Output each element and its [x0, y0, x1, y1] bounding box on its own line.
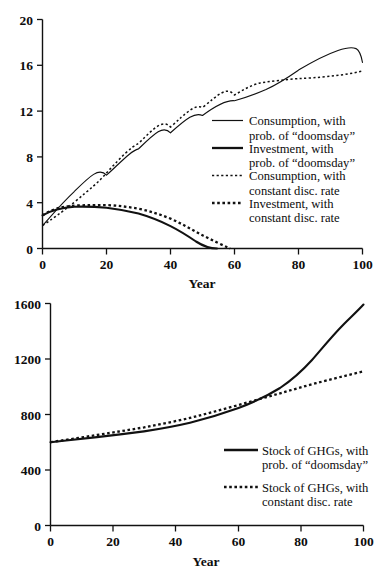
- bottom-ytick-label-400: 400: [21, 463, 42, 478]
- top-xtick-label-80: 80: [292, 257, 306, 272]
- top-x-ticks: [43, 249, 363, 255]
- bottom-ytick-label-0: 0: [34, 519, 41, 534]
- bottom-legend-label-0-line-0: Stock of GHGs, with: [262, 444, 369, 458]
- bottom-xtick-label-100: 100: [353, 534, 374, 549]
- bottom-x-ticks: [51, 526, 364, 532]
- series-ghg-doomsday: [51, 305, 364, 443]
- bottom-xtick-label-60: 60: [232, 534, 246, 549]
- top-legend-label-3-line-0: Investment, with: [249, 197, 334, 211]
- top-ytick-label-20: 20: [20, 13, 34, 28]
- top-legend-label-0-line-1: prob. of “doomsday”: [249, 129, 355, 143]
- top-ytick-label-12: 12: [20, 104, 34, 119]
- top-xtick-label-40: 40: [164, 257, 178, 272]
- chart-bottom-panel: 1600 1200 800 400 0 0 20 40 60 80 100 Ye…: [0, 289, 388, 579]
- top-xtick-label-20: 20: [100, 257, 114, 272]
- top-y-ticks: [37, 20, 43, 249]
- top-x-axis-title: Year: [189, 276, 216, 290]
- top-xtick-label-100: 100: [352, 257, 373, 272]
- series-investment-doomsday: [43, 207, 218, 249]
- bottom-legend-label-1-line-1: constant disc. rate: [262, 495, 353, 509]
- bottom-legend-label-0-line-1: prob. of “doomsday”: [262, 458, 368, 472]
- series-ghg-constant-rate: [51, 371, 364, 442]
- top-legend-label-1-line-0: Investment, with: [249, 142, 334, 156]
- bottom-ytick-label-800: 800: [21, 408, 42, 423]
- top-legend-label-0-line-0: Consumption, with: [249, 114, 346, 128]
- bottom-xtick-label-80: 80: [294, 534, 308, 549]
- top-legend: Consumption, with prob. of “doomsday” In…: [212, 114, 355, 225]
- top-ytick-label-8: 8: [26, 150, 33, 165]
- bottom-ytick-label-1200: 1200: [14, 352, 41, 367]
- bottom-legend-label-1-line-0: Stock of GHGs, with: [262, 481, 369, 495]
- top-ytick-label-16: 16: [20, 58, 34, 73]
- top-legend-label-2-line-1: constant disc. rate: [249, 184, 340, 198]
- bottom-x-axis-title: Year: [193, 554, 220, 569]
- chart-top-panel: 20 16 12 8 4 0 0 20 40 60 80 100 Year Co…: [0, 0, 388, 290]
- top-legend-label-2-line-0: Consumption, with: [249, 169, 346, 183]
- series-investment-constant-rate: [43, 205, 231, 248]
- top-xtick-label-0: 0: [39, 257, 46, 272]
- bottom-xtick-label-20: 20: [106, 534, 120, 549]
- bottom-legend: Stock of GHGs, with prob. of “doomsday” …: [224, 444, 369, 510]
- bottom-ytick-label-1600: 1600: [14, 297, 41, 312]
- top-xtick-label-60: 60: [228, 257, 242, 272]
- top-ytick-label-4: 4: [26, 196, 33, 211]
- top-legend-label-1-line-1: prob. of “doomsday”: [249, 156, 355, 170]
- bottom-xtick-label-40: 40: [169, 534, 183, 549]
- bottom-xtick-label-0: 0: [47, 534, 54, 549]
- top-ytick-label-0: 0: [26, 242, 33, 257]
- bottom-y-ticks: [45, 304, 51, 526]
- top-legend-label-3-line-1: constant disc. rate: [249, 211, 340, 225]
